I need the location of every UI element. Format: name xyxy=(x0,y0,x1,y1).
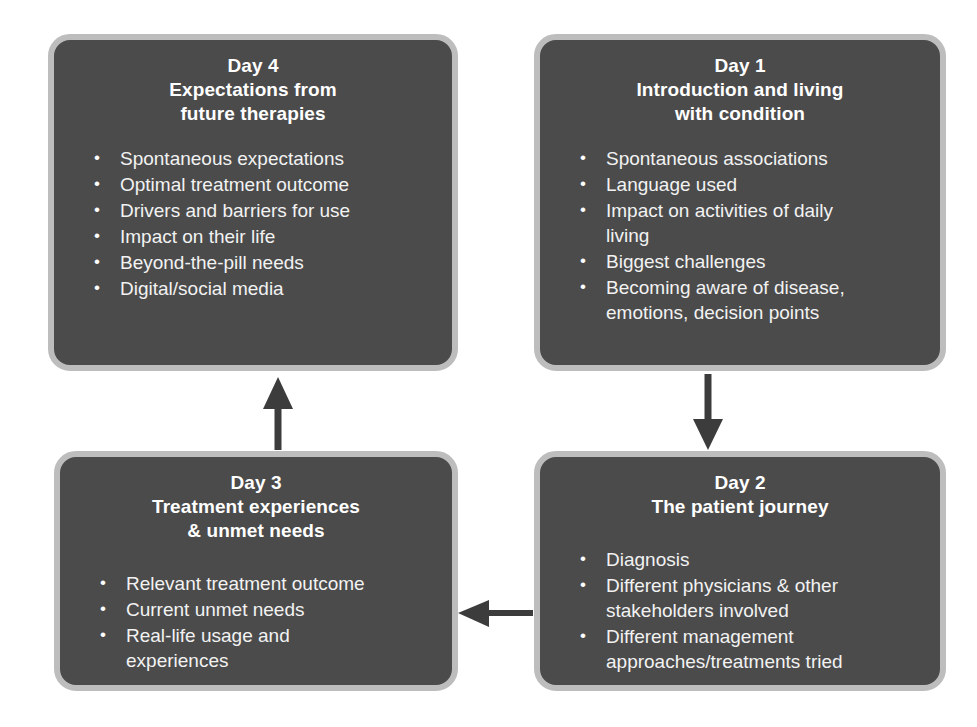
list-item: Digital/social media xyxy=(94,276,436,301)
list-item: Beyond-the-pill needs xyxy=(94,250,436,275)
card-day-1-bullet-list: Spontaneous associations Language used I… xyxy=(550,132,930,325)
list-item: Becoming aware of disease, emotions, dec… xyxy=(580,275,924,325)
card-day-2-title: Day 2 The patient journey xyxy=(550,471,930,519)
card-day-2[interactable]: Day 2 The patient journey Diagnosis Diff… xyxy=(534,451,946,691)
card-day-3[interactable]: Day 3 Treatment experiences & unmet need… xyxy=(54,451,458,691)
arrow-day1-to-day2 xyxy=(693,374,723,450)
card-day-1[interactable]: Day 1 Introduction and living with condi… xyxy=(534,34,946,371)
list-item: Spontaneous associations xyxy=(580,146,924,171)
arrow-day3-to-day4 xyxy=(263,377,293,450)
card-day-4-bullet-list: Spontaneous expectations Optimal treatme… xyxy=(64,132,442,301)
card-day-2-bullet-list: Diagnosis Different physicians & other s… xyxy=(550,525,930,674)
list-item: Spontaneous expectations xyxy=(94,146,436,171)
list-item: Impact on their life xyxy=(94,224,436,249)
card-day-3-title: Day 3 Treatment experiences & unmet need… xyxy=(70,471,442,543)
card-day-4[interactable]: Day 4 Expectations from future therapies… xyxy=(48,34,458,371)
list-item: Diagnosis xyxy=(580,547,924,572)
list-item: Optimal treatment outcome xyxy=(94,172,436,197)
arrow-day2-to-day3 xyxy=(458,600,533,627)
list-item: Language used xyxy=(580,172,924,197)
list-item: Biggest challenges xyxy=(580,249,924,274)
list-item: Different physicians & other stakeholder… xyxy=(580,573,924,623)
card-day-3-bullet-list: Relevant treatment outcome Current unmet… xyxy=(70,549,442,673)
list-item: Drivers and barriers for use xyxy=(94,198,436,223)
list-item: Impact on activities of daily living xyxy=(580,198,924,248)
card-day-4-title: Day 4 Expectations from future therapies xyxy=(64,54,442,126)
list-item: Real-life usage and experiences xyxy=(100,623,436,673)
list-item: Different management approaches/treatmen… xyxy=(580,624,924,674)
list-item: Relevant treatment outcome xyxy=(100,571,436,596)
list-item: Current unmet needs xyxy=(100,597,436,622)
card-day-1-title: Day 1 Introduction and living with condi… xyxy=(550,54,930,126)
